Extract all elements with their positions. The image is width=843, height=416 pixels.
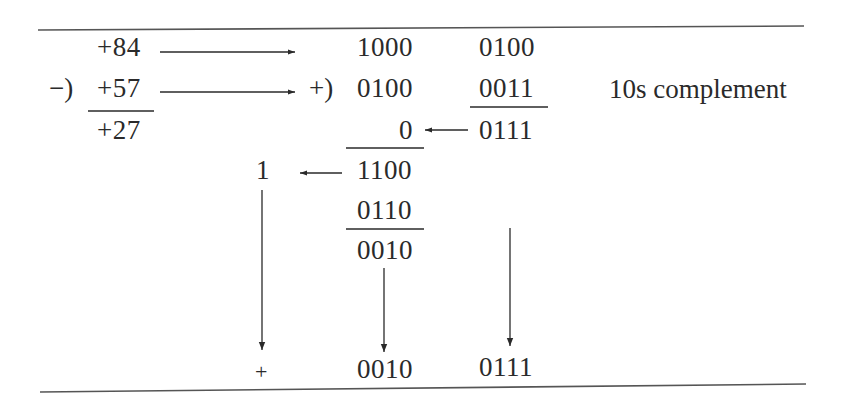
diagram-lines [0, 0, 843, 416]
complement-label: 10s complement [609, 76, 787, 103]
bcd-correction: 0110 [357, 197, 412, 224]
bcd-high-corrected: 0010 [357, 237, 413, 264]
result-low: 0111 [479, 354, 533, 381]
bcd-high-row2: 0100 [357, 75, 413, 102]
bcd-high-sum: 1100 [357, 157, 412, 184]
result-high: 0010 [357, 356, 413, 383]
decimal-result: +27 [97, 117, 141, 144]
bcd-plus-operator: +) [309, 75, 333, 102]
bcd-low-sum: 0111 [479, 117, 533, 144]
decimal-minus-operator: −) [49, 75, 73, 102]
carry-out-digit: 1 [256, 157, 270, 184]
result-sign: + [255, 358, 267, 385]
bcd-high-row1: 1000 [357, 34, 413, 61]
bottom-rule [40, 384, 806, 392]
bcd-low-row2: 0011 [479, 75, 534, 102]
bcd-low-row1: 0100 [479, 34, 535, 61]
decimal-minuend: +84 [97, 34, 141, 61]
top-rule [38, 26, 804, 30]
bcd-carry-in: 0 [399, 117, 413, 144]
decimal-subtrahend: +57 [97, 75, 141, 102]
